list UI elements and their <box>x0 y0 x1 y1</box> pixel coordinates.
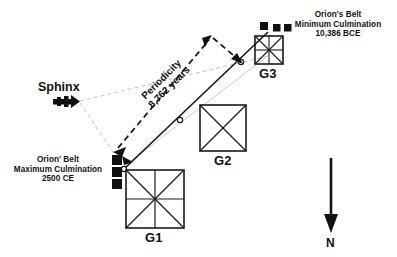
pyramid-g1-shape <box>126 170 184 228</box>
callout-maximum-line1: Orion' Belt <box>6 155 110 165</box>
callout-minimum-culmination: Orion's Belt Minimum Culmination 10,386 … <box>288 10 388 39</box>
callout-maximum-line3: 2500 CE <box>6 174 110 184</box>
sphinx-label: Sphinx <box>38 80 80 95</box>
orion-belt-stars-maximum <box>112 155 122 189</box>
callout-maximum-culmination: Orion' Belt Maximum Culmination 2500 CE <box>6 155 110 184</box>
pyramid-g3-shape <box>255 36 283 64</box>
north-arrow-icon <box>324 158 338 233</box>
pyramid-g1-label: G1 <box>145 230 163 245</box>
pyramid-g3-label: G3 <box>259 66 277 81</box>
callout-minimum-line1: Orion's Belt <box>288 10 388 20</box>
orion-belt-stars-minimum <box>260 22 292 32</box>
north-label: N <box>326 236 335 250</box>
pyramid-g2-shape <box>200 105 246 151</box>
alignment-node-g2 <box>177 117 182 122</box>
orion-correlation-diagram: Sphinx G1 G2 G3 Orion's Belt Minimum Cul… <box>0 0 397 257</box>
pyramid-g2-label: G2 <box>214 153 232 168</box>
sphinx-icon <box>53 95 80 108</box>
callout-minimum-line3: 10,386 BCE <box>288 29 388 39</box>
callout-minimum-line2: Minimum Culmination <box>288 20 388 30</box>
callout-maximum-line2: Maximum Culmination <box>6 165 110 175</box>
